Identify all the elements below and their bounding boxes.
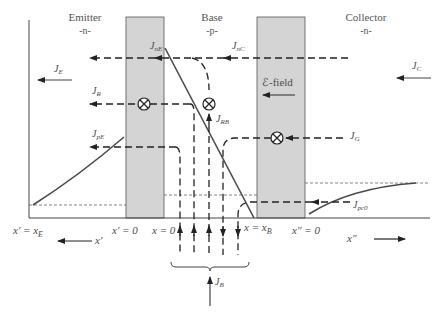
- x-prime-eq-xE-label: x′ = xE: [13, 225, 43, 239]
- x-dprime-direction-label: x″: [347, 233, 356, 244]
- JR-recombination-icon: [138, 98, 150, 110]
- emitter-hole-profile-curve: [33, 137, 124, 205]
- x-eq-0-label: x = 0: [152, 225, 175, 236]
- JB-label: JB: [215, 277, 224, 289]
- JE-label: JE: [54, 64, 63, 76]
- emitter-label: Emitter -n-: [60, 12, 110, 36]
- x-prime-direction-label: x′: [95, 235, 102, 246]
- JpE-base-vertical: [176, 147, 180, 255]
- base-name: Base: [201, 11, 222, 23]
- base-collector-depletion-region: [257, 17, 305, 218]
- collector-name: Collector: [346, 11, 387, 23]
- JpE-label: JpE: [92, 129, 104, 141]
- JRB-dashed-flow: [192, 58, 209, 90]
- bjt-current-diagram: [0, 0, 444, 320]
- JR-label: JR: [92, 86, 101, 98]
- emitter-name: Emitter: [69, 11, 102, 23]
- x-prime-eq-0-label: x′ = 0: [112, 225, 138, 236]
- JG-generation-icon: [271, 132, 283, 144]
- JG-label: JG: [350, 131, 360, 143]
- JRB-label: JRB: [216, 114, 229, 126]
- x-eq-xB-label: x = xB: [244, 222, 272, 236]
- collector-label: Collector -n-: [333, 12, 399, 36]
- Jpc0-label: Jpc0: [353, 200, 368, 212]
- base-label: Base -p-: [190, 12, 234, 36]
- JnC-label: JnC: [232, 41, 245, 53]
- base-type: -p-: [190, 26, 234, 36]
- base-current-brace: [171, 262, 249, 271]
- emitter-type: -n-: [60, 26, 110, 36]
- JC-label: JC: [412, 61, 421, 73]
- e-field-label: ℰ-field: [262, 77, 293, 88]
- x-dprime-eq-0-label: x″ = 0: [292, 225, 320, 236]
- JRB-recombination-icon: [203, 98, 215, 110]
- collector-type: -n-: [333, 26, 399, 36]
- JnE-label: JnE: [150, 41, 162, 53]
